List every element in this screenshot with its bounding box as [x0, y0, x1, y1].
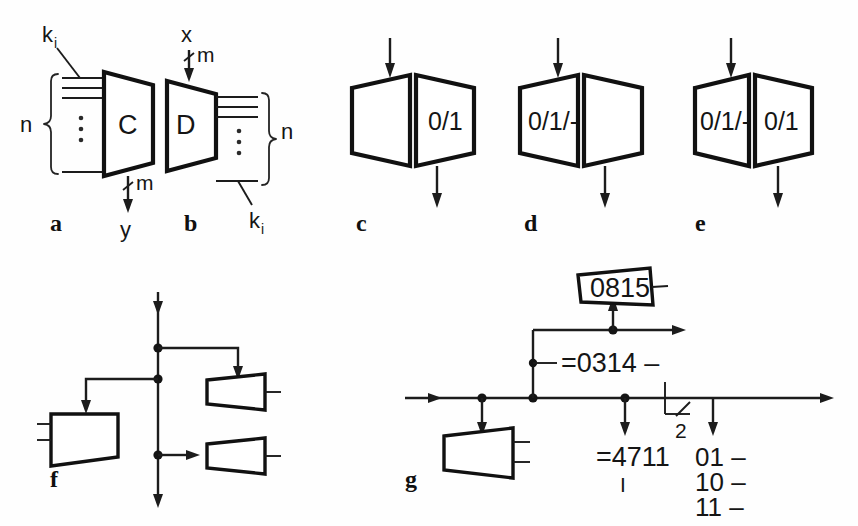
panel-g-width-label: 2: [675, 419, 687, 442]
panel-f-branch-upper-right: [158, 348, 238, 368]
circuit-notation-figure: k i n C m y a x m D n: [0, 0, 858, 526]
panel-a-width-label: m: [136, 171, 154, 194]
panel-g-left-block: [444, 428, 513, 478]
panel-f: f: [37, 292, 281, 508]
panel-f-branch2-arrowhead: [81, 400, 91, 414]
panel-d-right-block: [584, 75, 642, 166]
panel-c-output-arrowhead: [432, 193, 442, 208]
panel-c-right-label: 0/1: [428, 107, 463, 135]
panel-c: 0/1 c: [352, 38, 474, 236]
panel-a-output-arrowhead: [123, 199, 133, 213]
panel-e-letter: e: [695, 210, 706, 236]
panel-f-bus-bottom-arrowhead: [153, 494, 163, 508]
panel-g-label-4711: =4711: [596, 442, 670, 472]
panel-a-n-label: n: [20, 112, 32, 137]
panel-a: k i n C m y a: [20, 22, 154, 242]
panel-g-bus-exit-arrowhead: [820, 393, 834, 403]
panel-g-label-0314: =0314 –: [561, 348, 659, 378]
figure-root: k i n C m y a x m D n: [0, 0, 858, 526]
panel-b-ki-label: k: [249, 208, 261, 233]
panel-c-left-block: [352, 75, 410, 166]
panel-a-ellipsis-dot-2: [79, 127, 84, 132]
panel-f-letter: f: [50, 466, 59, 492]
panel-g-upper-bus-arrowhead: [672, 325, 686, 335]
panel-d-output-arrowhead: [600, 193, 610, 208]
panel-b-input-arrowhead: [184, 68, 194, 82]
panel-b: x m D n k i b: [167, 22, 293, 237]
panel-b-ki-leader: [238, 181, 252, 205]
panel-a-n-brace: [44, 74, 58, 174]
panel-a-letter: a: [50, 210, 62, 236]
panel-a-output-label: y: [120, 217, 131, 242]
panel-b-ki-subscript: i: [261, 221, 264, 237]
panel-g-decode-label-2: 11 –: [695, 492, 744, 522]
panel-a-ellipsis-dot-3: [79, 138, 84, 143]
panel-g: =0314 – 0815 =4711 I 2 01 – 10 – 11 – g: [405, 268, 834, 522]
panel-b-letter: b: [184, 210, 197, 236]
panel-g-label-4711-mark: I: [620, 473, 626, 496]
panel-f-branch3-arrowhead: [186, 450, 200, 460]
panel-g-letter: g: [405, 466, 417, 492]
panel-g-top-block-label: 0815: [590, 273, 650, 303]
panel-c-input-arrowhead: [385, 63, 395, 78]
panel-b-block-label: D: [176, 110, 196, 140]
panel-b-n-brace: [262, 93, 276, 185]
panel-b-n-label: n: [281, 119, 293, 144]
panel-a-ki-subscript: i: [54, 35, 57, 51]
panel-b-ellipsis-dot-1: [237, 129, 242, 134]
panel-b-input-label: x: [181, 22, 192, 47]
panel-e-output-arrowhead: [773, 193, 783, 208]
panel-a-ki-leader: [57, 48, 80, 78]
panel-b-width-label: m: [197, 43, 215, 66]
panel-f-lower-right-block: [207, 438, 265, 474]
panel-a-block-label: C: [118, 110, 138, 140]
panel-e: 0/1/- 0/1 e: [695, 38, 812, 236]
panel-e-left-label: 0/1/-: [700, 107, 750, 135]
panel-a-ki-label: k: [42, 22, 54, 47]
panel-f-left-block: [51, 414, 118, 466]
panel-g-branch-4711-arrowhead: [620, 422, 630, 436]
panel-d-input-arrowhead: [553, 63, 563, 78]
panel-e-input-arrowhead: [726, 63, 736, 78]
panel-d-left-label: 0/1/-: [528, 107, 578, 135]
panel-d: 0/1/- d: [520, 38, 642, 236]
panel-e-right-label: 0/1: [764, 107, 799, 135]
panel-f-bus-top-arrowhead: [153, 301, 163, 315]
panel-g-decode-arrowhead: [708, 422, 718, 436]
panel-f-upper-right-block: [207, 374, 265, 410]
panel-g-bus-entry-arrowhead: [428, 393, 442, 403]
panel-a-ellipsis-dot-1: [79, 116, 84, 121]
panel-g-top-block-stub: [652, 286, 668, 287]
panel-b-ellipsis-dot-3: [237, 151, 242, 156]
panel-d-letter: d: [524, 210, 538, 236]
panel-b-ellipsis-dot-2: [237, 140, 242, 145]
panel-c-letter: c: [356, 210, 367, 236]
panel-f-branch-left: [86, 379, 158, 402]
